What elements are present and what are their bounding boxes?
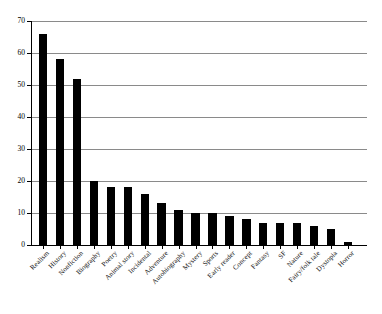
bar [208, 213, 216, 245]
bar [225, 216, 233, 245]
x-tick-mark [348, 246, 349, 249]
bar [242, 219, 250, 245]
bar [327, 229, 335, 245]
bar [174, 210, 182, 245]
bar [107, 187, 115, 245]
bars-group [31, 21, 367, 245]
x-tick-mark [43, 246, 44, 249]
bar [90, 181, 98, 245]
x-tick-mark [128, 246, 129, 249]
bar [276, 223, 284, 245]
x-tick-label: Fantasy [250, 250, 271, 271]
x-tick-mark [297, 246, 298, 249]
bar [124, 187, 132, 245]
y-tick-label: 50 [18, 81, 26, 89]
x-tick-mark [162, 246, 163, 249]
y-tick-label: 30 [18, 145, 26, 153]
x-tick-label: Horror [337, 250, 356, 269]
bar [56, 59, 64, 245]
x-tick-mark [280, 246, 281, 249]
bar-chart: 010203040506070 RealismHistoryNonfiction… [0, 0, 382, 314]
bar [157, 203, 165, 245]
x-tick-mark [60, 246, 61, 249]
x-tick-label: SF [277, 250, 288, 261]
y-tick-label: 70 [18, 17, 26, 25]
x-tick-mark [77, 246, 78, 249]
x-tick-mark [179, 246, 180, 249]
x-tick-mark [145, 246, 146, 249]
y-tick-label: 10 [18, 209, 26, 217]
bar [293, 223, 301, 245]
x-tick-mark [196, 246, 197, 249]
x-tick-mark [314, 246, 315, 249]
x-axis-labels: RealismHistoryNonfictionBiographyPoetryA… [31, 250, 367, 312]
bar [259, 223, 267, 245]
x-tick-label: Realism [29, 250, 51, 272]
bar [191, 213, 199, 245]
x-tick-mark [331, 246, 332, 249]
bar [310, 226, 318, 245]
y-tick-label: 40 [18, 113, 26, 121]
bar [344, 242, 352, 245]
x-tick-mark [111, 246, 112, 249]
bar [141, 194, 149, 245]
y-tick-label: 60 [18, 49, 26, 57]
y-tick-label: 20 [18, 177, 26, 185]
x-tick-mark [94, 246, 95, 249]
bar [39, 34, 47, 245]
y-tick-label: 0 [21, 241, 25, 249]
bar [73, 79, 81, 245]
